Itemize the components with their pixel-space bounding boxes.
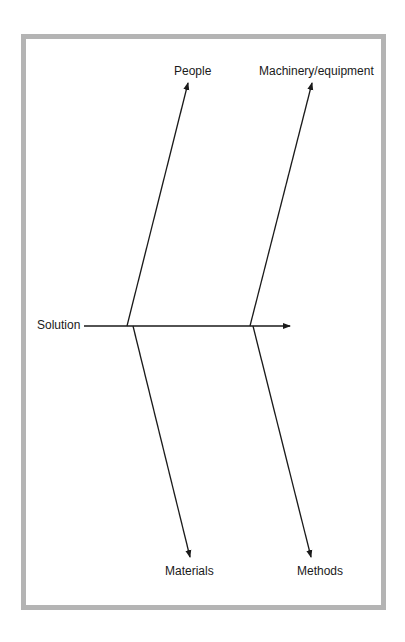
- bone-people-arrow: [127, 83, 188, 326]
- label-people: People: [174, 64, 211, 78]
- label-materials: Materials: [165, 564, 214, 578]
- label-methods: Methods: [297, 564, 343, 578]
- bone-methods-arrow: [253, 326, 311, 557]
- bone-materials-arrow: [133, 326, 190, 557]
- bone-machinery-arrow: [250, 83, 312, 326]
- label-machinery-equipment: Machinery/equipment: [259, 64, 374, 78]
- label-solution: Solution: [37, 318, 80, 332]
